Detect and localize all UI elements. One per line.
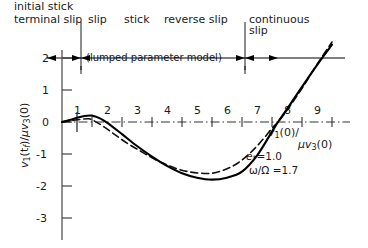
curve-exact-solution	[62, 45, 332, 180]
curve-lumped-parameter-model	[62, 42, 332, 174]
plot-canvas	[0, 0, 368, 248]
region-span-arrow-top	[47, 55, 345, 61]
lumped-parameter-bracket	[81, 66, 245, 74]
chart-figure: initial stick terminal slip slip stick r…	[0, 0, 368, 248]
y-axis-ticks	[62, 58, 72, 218]
